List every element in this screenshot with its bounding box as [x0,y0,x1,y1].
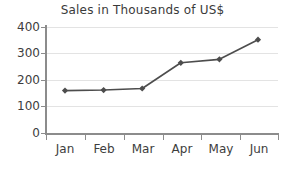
line-chart: Sales in Thousands of US$ 400 300 200 10… [0,0,285,170]
series-markers [62,37,261,94]
series-line-sales [65,40,258,91]
data-point-feb [101,87,107,93]
data-point-jan [62,88,68,94]
data-point-jun [255,37,261,43]
data-point-may [216,56,222,62]
series-layer [0,0,285,170]
